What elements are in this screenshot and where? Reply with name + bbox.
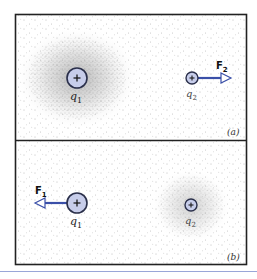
- electric-field-figure: q1 F2 q2 (a) F1: [0, 0, 257, 279]
- panel-label-a: (a): [227, 127, 240, 137]
- panel-label-b: (b): [227, 252, 240, 262]
- panel-a: q1 F2 q2 (a): [15, 15, 246, 140]
- panel-b: F1 q1 q2 (b): [16, 141, 246, 264]
